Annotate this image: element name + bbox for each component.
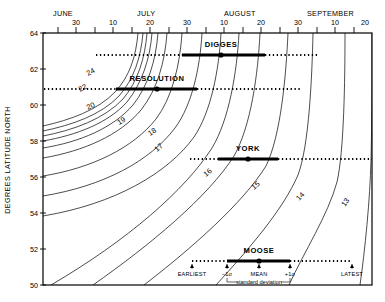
y-axis-title: DEGREES LATITUDE NORTH [3, 106, 12, 214]
site-label-digges: DIGGES [205, 40, 238, 49]
legend-minus-sd-label: −1σ [222, 271, 233, 277]
legend-mean-label: MEAN [251, 271, 268, 277]
york-mean-marker [245, 156, 250, 161]
xtick-label-3: 20 [146, 18, 154, 27]
month-label-august: AUGUST [224, 9, 256, 18]
site-label-york: YORK [236, 144, 260, 153]
ytick-label-52: 52 [30, 245, 38, 254]
legend-latest-label: LATEST [341, 271, 363, 277]
figure-background [0, 0, 385, 302]
site-label-resolution: RESOLUTION [130, 74, 185, 83]
xtick-label-6: 20 [257, 18, 265, 27]
legend-earliest-label: EARLIEST [178, 271, 207, 277]
ytick-label-56: 56 [30, 173, 38, 182]
xtick-label-2: 10 [109, 18, 117, 27]
xtick-label-9: 20 [361, 18, 369, 27]
legend-plus-sd-label: +1σ [285, 271, 296, 277]
ytick-label-50: 50 [30, 281, 38, 290]
month-label-september: SEPTEMBER [307, 9, 354, 18]
ytick-label-54: 54 [30, 209, 38, 218]
resolution-mean-marker [154, 86, 159, 91]
xtick-label-8: 10 [331, 18, 339, 27]
month-label-june: JUNE [53, 9, 73, 18]
digges-mean-marker [218, 52, 223, 57]
xtick-label-5: 10 [220, 18, 228, 27]
xtick-label-4: 30 [183, 18, 191, 27]
figure-container: JUNE JULY AUGUST SEPTEMBER 30 10 20 30 1… [0, 0, 385, 302]
ytick-label-62: 62 [30, 65, 38, 74]
legend-standard-deviation-label: standard deviation [236, 279, 282, 285]
xtick-label-1: 30 [72, 18, 80, 27]
ytick-label-60: 60 [30, 101, 38, 110]
ytick-label-58: 58 [30, 137, 38, 146]
site-label-moose: MOOSE [244, 246, 275, 255]
month-label-july: JULY [137, 9, 155, 18]
moose-mean-marker [256, 258, 261, 263]
xtick-label-7: 30 [294, 18, 302, 27]
chart-svg: JUNE JULY AUGUST SEPTEMBER 30 10 20 30 1… [0, 0, 385, 302]
ytick-label-64: 64 [30, 29, 38, 38]
